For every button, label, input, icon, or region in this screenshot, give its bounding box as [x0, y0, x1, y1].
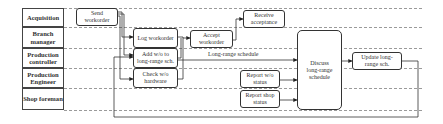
node-discuss-long-range-schedule: Discuss long-range schedule: [297, 30, 342, 110]
node-check-wo-hardware: Check w/o hardware: [133, 68, 178, 88]
node-log-workorder: Log workorder: [133, 28, 178, 48]
edge-label-long-range-schedule: Long-range schedule: [208, 51, 258, 57]
node-send-workorder: Send workorder: [76, 8, 118, 26]
node-report-wo-status: Report w/o status: [240, 70, 280, 88]
node-add-wo-to-long-range-schedule: Add w/o to long-range sch.: [133, 48, 178, 68]
node-update-long-range-schedule: Update long-range sch.: [352, 52, 402, 70]
node-receive-acceptance: Receive acceptance: [243, 10, 285, 28]
node-report-shop-status: Report shop status: [240, 90, 280, 108]
node-accept-workorder: Accept workorder: [190, 30, 233, 48]
